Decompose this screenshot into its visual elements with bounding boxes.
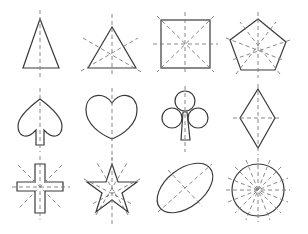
rhombus (233, 84, 282, 155)
five-pointed-star (84, 157, 140, 224)
isosceles-triangle (23, 10, 59, 78)
square (153, 12, 218, 75)
circle (226, 158, 290, 222)
heart (86, 88, 137, 160)
spade (18, 88, 62, 152)
regular-pentagon (226, 12, 290, 78)
symmetry-diagram (0, 0, 308, 234)
equilateral-triangle (81, 14, 143, 76)
cross (12, 156, 70, 220)
ellipse (148, 153, 222, 222)
club (162, 86, 208, 152)
